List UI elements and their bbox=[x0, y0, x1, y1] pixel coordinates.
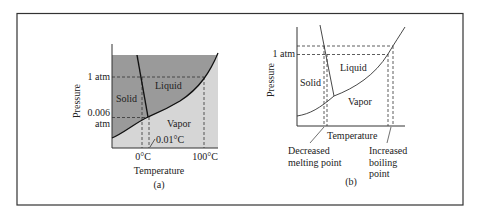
phase-diagram-figure: Pressure 1 atm 0.006 atm Solid Liquid Va… bbox=[0, 0, 478, 216]
region-vapor-b: Vapor bbox=[348, 96, 373, 107]
panel-b: Pressure 1 atm Solid Liquid Vapor Temper… bbox=[265, 25, 407, 188]
panel-b-tick-1atm: 1 atm bbox=[273, 48, 296, 59]
region-solid-a: Solid bbox=[116, 93, 137, 104]
boiling-annotation-line1: Increased bbox=[369, 145, 407, 156]
melting-pointer bbox=[310, 127, 324, 143]
panel-b-ylabel: Pressure bbox=[265, 63, 276, 97]
panel-a-ylabel: Pressure bbox=[71, 84, 82, 118]
panel-a-tick-0c: 0°C bbox=[135, 151, 151, 162]
panel-b-xlabel: Temperature bbox=[327, 130, 378, 141]
panel-a-tick-1atm: 1 atm bbox=[88, 71, 111, 82]
boiling-annotation-line3: point bbox=[369, 168, 390, 179]
panel-a: Pressure 1 atm 0.006 atm Solid Liquid Va… bbox=[71, 44, 218, 191]
region-vapor-a: Vapor bbox=[167, 118, 192, 129]
triple-point-label: 0.01°C bbox=[156, 134, 184, 145]
region-solid-b: Solid bbox=[300, 77, 321, 88]
panel-a-tick-atm: atm bbox=[95, 118, 110, 129]
panel-b-caption: (b) bbox=[345, 176, 357, 188]
melting-annotation-line1: Decreased bbox=[288, 145, 330, 156]
panel-a-tick-100c: 100°C bbox=[192, 151, 218, 162]
region-liquid-b: Liquid bbox=[340, 62, 367, 73]
melting-annotation-line2: melting point bbox=[288, 157, 342, 168]
panel-a-caption: (a) bbox=[153, 179, 164, 191]
panel-a-xlabel: Temperature bbox=[134, 165, 185, 176]
boiling-pointer bbox=[387, 127, 391, 143]
boiling-annotation-line2: boiling bbox=[369, 157, 397, 168]
figure-frame bbox=[17, 14, 463, 206]
region-liquid-a: Liquid bbox=[155, 80, 182, 91]
panel-a-tick-0006: 0.006 bbox=[88, 107, 111, 118]
